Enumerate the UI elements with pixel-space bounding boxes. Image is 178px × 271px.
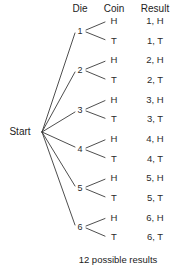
die-node-3: 3	[77, 106, 82, 115]
result-label-9: 5, H	[146, 173, 163, 183]
coin-node-6: T	[111, 114, 117, 124]
result-label-7: 4, H	[146, 134, 163, 144]
coin-node-1: H	[111, 16, 118, 26]
result-label-5: 3, H	[146, 95, 163, 105]
result-label-4: 2, T	[147, 75, 163, 85]
coin-node-2: T	[111, 36, 117, 46]
start-node-label: Start	[9, 127, 30, 137]
result-label-6: 3, T	[147, 114, 163, 124]
coin-node-11: H	[111, 213, 118, 223]
caption-total-results: 12 possible results	[79, 255, 158, 265]
coin-node-5: H	[111, 95, 118, 105]
probability-tree-diagram: Die Coin Result Start 1 2 3 4 5 6 H T H …	[0, 0, 178, 271]
coin-node-10: T	[111, 193, 117, 203]
column-header-coin: Coin	[104, 4, 125, 14]
result-label-3: 2, H	[146, 55, 163, 65]
die-node-5: 5	[77, 184, 82, 193]
die-node-2: 2	[77, 66, 82, 75]
coin-node-12: T	[111, 232, 117, 242]
result-label-12: 6, T	[147, 232, 163, 242]
result-label-1: 1, H	[146, 16, 163, 26]
die-node-1: 1	[77, 27, 82, 36]
column-header-die: Die	[72, 4, 87, 14]
result-label-10: 5, T	[147, 193, 163, 203]
die-node-6: 6	[77, 223, 82, 232]
coin-node-9: H	[111, 173, 118, 183]
coin-node-3: H	[111, 55, 118, 65]
coin-node-4: T	[111, 75, 117, 85]
column-header-result: Result	[141, 4, 169, 14]
coin-node-8: T	[111, 154, 117, 164]
result-label-8: 4, T	[147, 154, 163, 164]
result-label-2: 1, T	[147, 36, 163, 46]
coin-node-7: H	[111, 134, 118, 144]
result-label-11: 6, H	[146, 213, 163, 223]
die-node-4: 4	[77, 145, 82, 154]
